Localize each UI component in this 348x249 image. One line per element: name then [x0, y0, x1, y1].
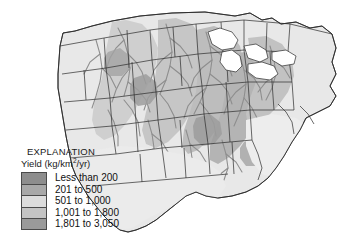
legend-subtitle: Yield (kg/km2/yr) — [21, 158, 171, 170]
legend-swatch — [21, 218, 47, 230]
legend-swatch — [21, 195, 47, 207]
legend-swatch — [21, 207, 47, 219]
legend-subtitle-suffix: /yr) — [77, 158, 91, 169]
map-legend: EXPLANATION Yield (kg/km2/yr) Less than … — [21, 146, 171, 230]
legend-row: 501 to 1,000 — [21, 195, 171, 207]
legend-label: 1,801 to 3,050 — [55, 218, 119, 230]
legend-row: 1,001 to 1,800 — [21, 207, 171, 219]
legend-swatch — [21, 172, 47, 184]
legend-subtitle-prefix: Yield (kg/km — [21, 158, 73, 169]
legend-label: Less than 200 — [55, 172, 118, 184]
legend-items: Less than 200201 to 500501 to 1,0001,001… — [21, 172, 171, 230]
legend-row: 1,801 to 3,050 — [21, 218, 171, 230]
legend-label: 201 to 500 — [55, 184, 102, 196]
legend-label: 1,001 to 1,800 — [55, 207, 119, 219]
legend-row: Less than 200 — [21, 172, 171, 184]
legend-title: EXPLANATION — [27, 146, 171, 157]
map-figure: EXPLANATION Yield (kg/km2/yr) Less than … — [0, 0, 348, 249]
legend-row: 201 to 500 — [21, 184, 171, 196]
legend-swatch — [21, 184, 47, 196]
legend-label: 501 to 1,000 — [55, 195, 111, 207]
